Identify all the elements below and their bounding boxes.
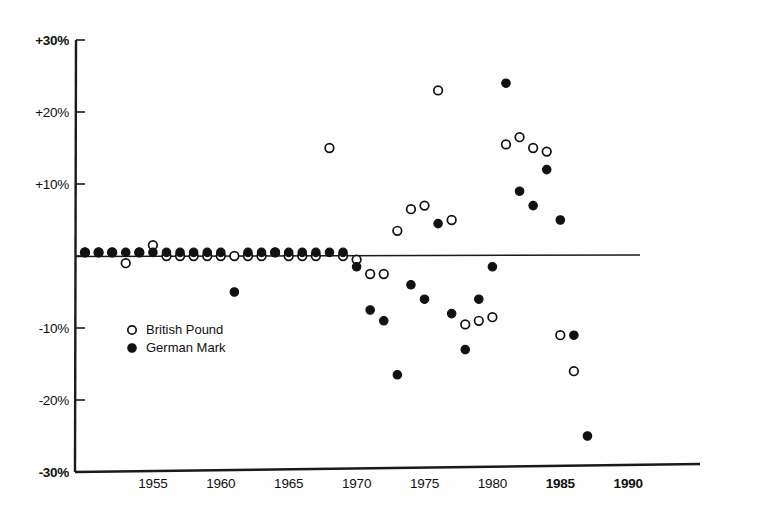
data-point	[420, 295, 428, 303]
data-point	[339, 248, 347, 256]
data-point	[122, 248, 130, 256]
data-point	[488, 263, 496, 271]
data-point	[420, 201, 429, 210]
data-point	[488, 313, 497, 322]
scatter-plot: +30%+20%+10%-10%-20%-30% 195519601965197…	[0, 0, 767, 530]
x-axis-line	[75, 464, 700, 472]
data-point	[407, 205, 416, 214]
data-point	[570, 367, 579, 376]
data-point	[366, 270, 375, 279]
data-point	[502, 140, 511, 149]
legend-marker-filled-circle-icon	[128, 344, 136, 352]
data-point	[312, 248, 320, 256]
data-point	[162, 248, 170, 256]
data-point	[352, 263, 360, 271]
data-point	[461, 345, 469, 353]
data-point	[407, 281, 415, 289]
data-point	[434, 219, 442, 227]
data-point	[149, 248, 157, 256]
data-point	[203, 248, 211, 256]
data-point	[135, 248, 143, 256]
data-point	[475, 295, 483, 303]
data-point	[230, 288, 238, 296]
data-point	[393, 371, 401, 379]
data-point	[570, 331, 578, 339]
legend-label: British Pound	[146, 322, 223, 337]
y-tick-label: +30%	[35, 33, 69, 48]
data-point	[502, 79, 510, 87]
data-point	[271, 248, 279, 256]
chart-legend: British PoundGerman Mark	[128, 322, 226, 355]
x-tick-label: 1960	[206, 476, 235, 491]
x-tick-label: 1970	[342, 476, 371, 491]
data-point	[380, 317, 388, 325]
data-point	[230, 252, 239, 261]
y-tick-label: -20%	[39, 393, 70, 408]
data-point	[257, 248, 265, 256]
data-point	[515, 187, 523, 195]
x-tick-label: 1975	[410, 476, 439, 491]
data-point	[447, 216, 456, 225]
data-point	[542, 147, 551, 156]
data-point	[583, 432, 591, 440]
data-point	[217, 248, 225, 256]
y-tick-label: -30%	[39, 465, 70, 480]
data-point	[556, 331, 565, 340]
data-point	[244, 248, 252, 256]
data-point	[556, 216, 564, 224]
data-point	[121, 259, 130, 268]
data-point	[475, 317, 484, 326]
data-point	[285, 248, 293, 256]
data-point	[94, 248, 102, 256]
data-point	[176, 248, 184, 256]
data-point	[298, 248, 306, 256]
data-point	[461, 320, 470, 329]
data-point	[393, 227, 402, 236]
data-point	[325, 144, 334, 153]
data-point	[366, 306, 374, 314]
data-point	[189, 248, 197, 256]
x-axis-ticks: 19551960196519701975198019851990	[138, 476, 643, 491]
x-tick-label: 1985	[546, 476, 576, 491]
data-point	[529, 201, 537, 209]
x-tick-label: 1965	[274, 476, 303, 491]
data-point	[379, 270, 388, 279]
x-tick-label: 1980	[478, 476, 507, 491]
data-point	[515, 133, 524, 142]
y-tick-label: +20%	[35, 105, 69, 120]
y-axis-ticks: +30%+20%+10%-10%-20%-30%	[35, 33, 85, 480]
legend-label: German Mark	[146, 340, 226, 355]
data-point	[81, 248, 89, 256]
y-axis-line	[75, 40, 76, 472]
data-point	[447, 309, 455, 317]
x-tick-label: 1990	[614, 476, 643, 491]
data-point	[325, 248, 333, 256]
data-points	[81, 79, 592, 440]
y-tick-label: -10%	[39, 321, 70, 336]
legend-marker-open-circle-icon	[128, 326, 136, 334]
y-tick-label: +10%	[35, 177, 69, 192]
data-point	[434, 86, 443, 95]
data-point	[543, 165, 551, 173]
data-point	[529, 144, 538, 153]
data-point	[108, 248, 116, 256]
chart-container: +30%+20%+10%-10%-20%-30% 195519601965197…	[0, 0, 767, 530]
x-tick-label: 1955	[138, 476, 167, 491]
